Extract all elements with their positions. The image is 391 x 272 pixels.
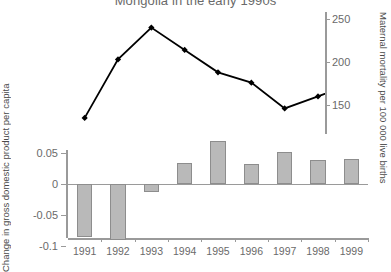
x-axis-label-1996: 1996: [240, 245, 263, 257]
x-axis-label-1997: 1997: [273, 245, 296, 257]
bar-1992: [110, 184, 125, 240]
x-axis-label-1998: 1998: [306, 245, 329, 257]
left-axis-tick-label: 0.05: [37, 147, 58, 159]
bar-1993: [144, 184, 159, 192]
bar-1995: [210, 141, 225, 184]
bar-1996: [244, 164, 259, 184]
x-axis-label-1994: 1994: [173, 245, 196, 257]
chart-figure: Mongolia in the early 1990s 150200250 Ma…: [0, 0, 391, 272]
bar-chart-plot-area: [0, 0, 391, 272]
x-axis-label-1999: 1999: [340, 245, 363, 257]
x-axis-label-1991: 1991: [73, 245, 96, 257]
x-axis-label-1992: 1992: [106, 245, 129, 257]
bar-1994: [177, 163, 192, 184]
left-y-axis-title: Change in gross domestic product per cap…: [0, 144, 30, 272]
left-axis-tick-label: -0.1: [39, 240, 58, 252]
bar-1991: [77, 184, 92, 237]
bar-1998: [310, 160, 325, 184]
bar-1997: [277, 152, 292, 184]
left-axis-tick-label: 0: [52, 178, 58, 190]
x-axis-tick: [168, 238, 169, 242]
bar-1999: [344, 159, 359, 184]
left-axis-tick: [61, 215, 66, 216]
x-axis-tick: [368, 238, 369, 242]
left-axis-tick: [61, 184, 66, 185]
x-axis-label-1995: 1995: [206, 245, 229, 257]
left-axis-tick: [61, 153, 66, 154]
x-axis-tick: [268, 238, 269, 242]
left-axis-tick: [61, 246, 66, 247]
x-axis-tick: [335, 238, 336, 242]
x-axis-tick: [301, 238, 302, 242]
x-axis-tick: [135, 238, 136, 242]
x-axis-tick: [235, 238, 236, 242]
x-axis-label-1993: 1993: [140, 245, 163, 257]
x-axis-tick: [101, 238, 102, 242]
left-axis-tick-label: -0.05: [33, 209, 58, 221]
x-axis-tick: [201, 238, 202, 242]
